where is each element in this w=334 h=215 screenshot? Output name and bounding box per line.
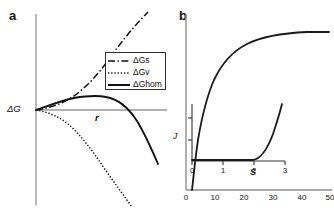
- panel-a-legend: ΔGs ΔGv ΔGhom: [105, 52, 166, 90]
- panel-b-xtick-30: 30: [269, 194, 278, 202]
- panel-b-xtick-0: 0: [184, 194, 188, 202]
- panel-a: a ΔG r ΔGs: [0, 0, 167, 215]
- panel-b-xtick-20: 20: [240, 194, 249, 202]
- inset-xtick-3: 3: [283, 167, 287, 175]
- inset-xtick-0: 0: [190, 167, 194, 175]
- panel-a-plot: [0, 0, 167, 215]
- legend-swatch-dash-dot-icon: [108, 57, 130, 65]
- legend-swatch-solid-icon: [108, 81, 130, 89]
- panel-b-curve: [192, 32, 329, 190]
- legend-item-delta-gv: ΔGv: [108, 67, 165, 78]
- panel-b-plot: [167, 0, 334, 215]
- legend-item-delta-gs: ΔGs: [108, 55, 165, 66]
- panel-b-xtick-10: 10: [211, 194, 220, 202]
- panel-b-xtick-40: 40: [298, 194, 307, 202]
- legend-item-delta-ghom: ΔGhom: [108, 79, 165, 90]
- legend-label-delta-ghom: ΔGhom: [133, 80, 162, 89]
- inset-curve: [192, 104, 282, 160]
- panel-b-xtick-50: 50: [326, 194, 334, 202]
- panel-a-x-axis-label: r: [95, 113, 99, 123]
- figure-container: a ΔG r ΔGs: [0, 0, 334, 215]
- panel-a-curve-delta-gv: [36, 110, 132, 207]
- panel-b: b 0 10 20 30 40 50: [167, 0, 334, 215]
- legend-swatch-dotted-icon: [108, 69, 130, 77]
- inset-xtick-2: 2: [252, 167, 256, 175]
- inset-xtick-1: 1: [221, 167, 225, 175]
- panel-a-y-axis-label: ΔG: [7, 104, 21, 114]
- legend-label-delta-gv: ΔGv: [133, 68, 150, 77]
- inset-y-axis-label: J: [173, 131, 177, 141]
- legend-label-delta-gs: ΔGs: [133, 56, 150, 65]
